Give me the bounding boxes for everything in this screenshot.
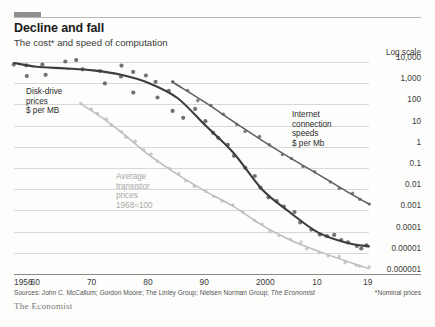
y-tick-label: 1 — [416, 138, 421, 147]
data-point — [44, 73, 48, 77]
data-point — [149, 152, 152, 155]
data-point — [243, 130, 246, 133]
data-point — [96, 112, 99, 115]
data-point — [204, 190, 207, 193]
data-point — [124, 136, 127, 139]
data-point — [154, 80, 158, 84]
header-rule — [14, 17, 421, 18]
series-label-trans-line-0: Average — [116, 172, 153, 182]
data-point — [253, 219, 256, 222]
data-point — [261, 222, 264, 225]
data-point — [299, 240, 302, 243]
data-point — [74, 58, 78, 62]
sources-note: Sources: John C. McCallum; Gordon Moore;… — [14, 289, 315, 296]
data-point — [368, 265, 371, 268]
data-point — [298, 220, 302, 224]
y-tick-label: 10,000 — [396, 53, 421, 62]
x-tick-label: 10 — [312, 277, 321, 287]
data-point — [275, 199, 279, 203]
page-subtitle: The cost* and speed of computation — [14, 37, 168, 48]
series-label-disk-drive: Disk-drive prices $ per MB — [26, 87, 62, 116]
data-point — [338, 255, 341, 258]
x-tick-label: 60 — [31, 277, 40, 287]
data-point — [142, 148, 145, 151]
data-point — [351, 192, 354, 195]
data-point — [196, 99, 199, 102]
data-point — [119, 64, 123, 68]
brand-wordmark: The Economist — [14, 301, 73, 311]
data-point — [144, 73, 148, 77]
data-point — [155, 95, 159, 99]
chart-svg — [14, 62, 369, 274]
data-point — [171, 109, 175, 113]
data-point — [131, 91, 135, 95]
data-point — [359, 246, 363, 250]
data-point — [309, 228, 313, 232]
y-tick-label: 10 — [412, 117, 421, 126]
data-point — [358, 198, 361, 201]
data-point — [253, 174, 257, 178]
data-point — [105, 117, 108, 120]
sources-text: Sources: John C. McCallum; Gordon Moore;… — [14, 289, 269, 296]
series-label-trans-line-3: 1968=100 — [116, 201, 153, 211]
series-label-net-line-1: connection — [292, 120, 332, 130]
data-point — [103, 81, 107, 85]
plot-area — [14, 62, 369, 274]
series-label-disk-line-2: $ per MB — [26, 106, 62, 116]
x-tick-label: 70 — [87, 277, 96, 287]
data-point — [156, 159, 159, 162]
series-label-trans-line-2: prices — [116, 191, 153, 201]
data-point — [63, 59, 67, 63]
data-point — [290, 157, 293, 160]
series-label-trans-line-1: transistor — [116, 182, 153, 192]
data-point — [177, 172, 180, 175]
data-point — [241, 210, 244, 213]
series-label-net-line-0: Internet — [292, 110, 332, 120]
series-label-disk-line-1: prices — [26, 97, 62, 107]
data-point — [119, 74, 123, 78]
data-point — [193, 185, 196, 188]
data-point — [220, 199, 223, 202]
data-point — [281, 153, 284, 156]
data-point — [171, 80, 174, 83]
data-point — [329, 180, 332, 183]
chart-figure: Decline and fall The cost* and speed of … — [0, 0, 435, 327]
data-point — [289, 238, 292, 241]
series-label-net-line-2: speeds — [292, 129, 332, 139]
data-point — [232, 154, 236, 158]
data-point — [343, 261, 346, 264]
data-point — [268, 230, 271, 233]
data-point — [326, 254, 329, 257]
data-point — [318, 233, 322, 237]
data-point — [235, 123, 238, 126]
y-tick-label: 0.000001 — [387, 265, 421, 274]
y-tick-label: 0.0001 — [396, 223, 421, 232]
data-point — [98, 69, 102, 73]
data-point — [216, 136, 220, 140]
data-point — [193, 107, 197, 111]
x-tick-label: 90 — [200, 277, 209, 287]
x-tick-label: 80 — [143, 277, 152, 287]
data-point — [40, 63, 44, 67]
data-point — [277, 234, 280, 237]
data-point — [203, 119, 207, 123]
data-point — [109, 123, 112, 126]
data-point — [24, 63, 28, 67]
series-line-1 — [172, 82, 369, 205]
data-point — [258, 186, 262, 190]
data-point — [358, 264, 361, 267]
y-tick-label: 0.001 — [401, 201, 422, 210]
data-point — [364, 243, 368, 247]
data-point — [339, 238, 343, 242]
series-label-internet-speeds: Internet connection speeds $ per Mb — [292, 110, 332, 148]
data-point — [184, 179, 187, 182]
y-tick-label: 0.00001 — [391, 244, 421, 253]
page-title: Decline and fall — [14, 21, 104, 35]
sources-italic: The Economist — [271, 289, 315, 296]
data-point — [131, 70, 135, 74]
data-point — [368, 202, 371, 205]
data-point — [226, 143, 230, 147]
nominal-prices-note: *Nominal prices — [375, 289, 421, 296]
data-point — [211, 131, 215, 135]
data-point — [268, 143, 271, 146]
